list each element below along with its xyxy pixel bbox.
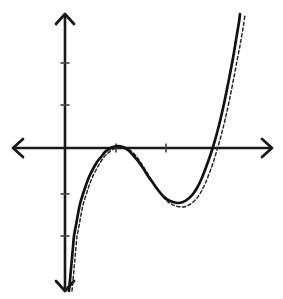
coordinate-plot-svg bbox=[0, 0, 283, 299]
graph-figure bbox=[0, 0, 283, 299]
